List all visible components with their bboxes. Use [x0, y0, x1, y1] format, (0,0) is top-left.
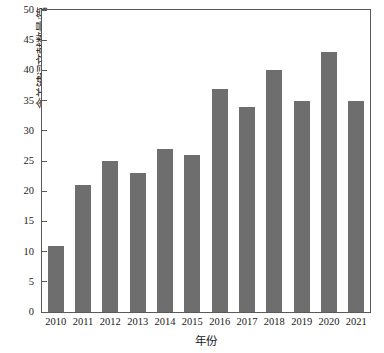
bar-chart: 含关键词文献数量/篇 05101520253035404550 20102011…	[0, 0, 384, 353]
x-axis-title: 年份	[41, 332, 371, 348]
x-axis-tick-label: 2021	[334, 316, 378, 328]
y-axis-tick	[42, 251, 47, 252]
bar	[184, 155, 200, 312]
y-axis-tick-label: 45	[0, 35, 34, 45]
bar	[266, 70, 282, 312]
y-axis-tick-label: 15	[0, 216, 34, 226]
y-axis-tick-label: 40	[0, 65, 34, 75]
plot-area	[41, 9, 371, 313]
y-axis-tick-label: 35	[0, 96, 34, 106]
y-axis-tick	[42, 281, 47, 282]
bar	[102, 161, 118, 312]
bar	[75, 185, 91, 312]
plot-inner	[42, 10, 370, 312]
y-axis-tick-label: 20	[0, 186, 34, 196]
y-axis-tick-label: 30	[0, 126, 34, 136]
y-axis-tick-label: 10	[0, 247, 34, 257]
y-axis-tick	[42, 191, 47, 192]
y-axis-tick-label: 25	[0, 156, 34, 166]
bar	[48, 246, 64, 312]
y-axis-tick	[42, 161, 47, 162]
y-axis-tick-label: 5	[0, 277, 34, 287]
bar	[321, 52, 337, 312]
bar	[348, 101, 364, 312]
y-axis-tick	[42, 10, 47, 11]
y-axis-tick	[42, 221, 47, 222]
bar	[294, 101, 310, 312]
bar	[212, 89, 228, 312]
bar	[157, 149, 173, 312]
y-axis-tick	[42, 130, 47, 131]
y-axis-tick	[42, 100, 47, 101]
y-axis-tick-label: 50	[0, 5, 34, 15]
bar	[130, 173, 146, 312]
y-axis-tick	[42, 70, 47, 71]
y-axis-tick-label: 0	[0, 307, 34, 317]
y-axis-tick	[42, 40, 47, 41]
bar	[239, 107, 255, 312]
